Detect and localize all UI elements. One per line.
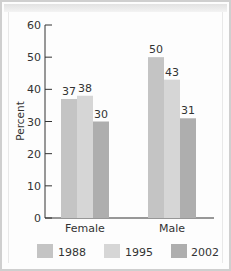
data-label: 50 xyxy=(149,43,163,56)
bar-male-1988 xyxy=(148,57,164,218)
y-tick-label: 40 xyxy=(27,83,41,96)
category-label-male: Male xyxy=(159,222,185,235)
y-tick-label: 20 xyxy=(27,148,41,161)
bar-male-2002 xyxy=(180,118,196,218)
bar-female-1995 xyxy=(77,96,93,218)
category-label-female: Female xyxy=(65,222,105,235)
y-tick-label: 0 xyxy=(34,212,41,225)
data-label: 30 xyxy=(94,108,108,121)
y-tick-label: 10 xyxy=(27,180,41,193)
legend-label-1995: 1995 xyxy=(125,246,153,259)
y-tick-label: 30 xyxy=(27,116,41,129)
legend-swatch-1988 xyxy=(37,244,53,258)
legend-swatch-1995 xyxy=(104,244,120,258)
y-tick-label: 60 xyxy=(27,19,41,32)
data-label: 43 xyxy=(165,66,179,79)
legend-label-1988: 1988 xyxy=(58,246,86,259)
data-label: 37 xyxy=(62,85,76,98)
bar-female-1988 xyxy=(61,99,77,218)
y-ticks: 0102030405060 xyxy=(27,19,52,225)
legend-label-2002: 2002 xyxy=(191,246,219,259)
y-tick-label: 50 xyxy=(27,51,41,64)
bar-female-2002 xyxy=(93,122,109,219)
data-label: 38 xyxy=(78,82,92,95)
bar-chart: 0102030405060 Percent 373830504331 Femal… xyxy=(0,0,231,271)
legend: 1988 1995 2002 xyxy=(37,244,219,259)
bars: 373830504331 xyxy=(61,43,196,218)
bar-male-1995 xyxy=(164,80,180,218)
y-axis-title: Percent xyxy=(14,101,26,141)
data-label: 31 xyxy=(181,104,195,117)
legend-swatch-2002 xyxy=(171,244,187,258)
